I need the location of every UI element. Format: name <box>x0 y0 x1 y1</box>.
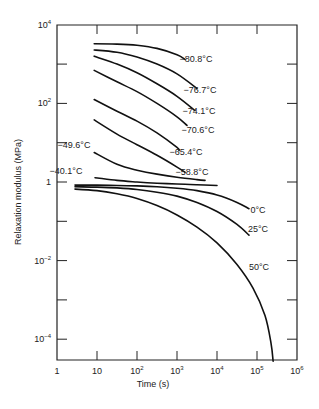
x-tick-label: 10 <box>92 366 102 376</box>
y-tick-label: 10−2 <box>34 255 52 266</box>
curve-label: 25°C <box>248 224 269 234</box>
x-tick-label: 102 <box>130 365 144 376</box>
x-tick-label: 106 <box>290 365 304 376</box>
curve-label: −76.7°C <box>184 85 217 95</box>
curve-label: −80.8°C <box>180 54 213 64</box>
curve-label: −74.1°C <box>183 106 216 116</box>
curve <box>94 56 195 110</box>
curve-label: 0°C <box>250 205 266 215</box>
curve-labels: −80.8°C−76.7°C−74.1°C−70.6°C−65.4°C−58.8… <box>50 54 270 272</box>
y-axis-title: Relaxation modulus (MPa) <box>13 139 23 245</box>
x-tick-label: 104 <box>210 365 224 376</box>
curve-label: −70.6°C <box>182 125 215 135</box>
relaxation-modulus-chart: 110102103104105106104102110−210−4 −80.8°… <box>0 0 319 409</box>
curve-label: −65.4°C <box>170 147 203 157</box>
curve <box>75 185 249 209</box>
curves <box>75 44 273 362</box>
curve <box>94 70 187 125</box>
x-tick-label: 105 <box>250 365 264 376</box>
plot-axes: 110102103104105106104102110−210−4 <box>34 19 304 376</box>
curve-label: −58.8°C <box>176 167 209 177</box>
plot-frame <box>57 25 297 360</box>
x-tick-label: 1 <box>54 366 59 376</box>
curve <box>75 187 249 235</box>
curve-label: −49.6°C <box>58 140 91 150</box>
curve <box>75 189 273 361</box>
curve-label: 50°C <box>249 262 270 272</box>
y-tick-label: 102 <box>38 97 52 108</box>
curve <box>94 100 179 151</box>
y-tick-label: 10−4 <box>34 333 52 344</box>
x-axis-title: Time (s) <box>137 379 170 389</box>
curve-label: −40.1°C <box>50 166 83 176</box>
y-tick-label: 104 <box>38 19 52 30</box>
y-tick-label: 1 <box>46 177 51 187</box>
curve <box>95 178 217 186</box>
x-tick-label: 103 <box>170 365 184 376</box>
